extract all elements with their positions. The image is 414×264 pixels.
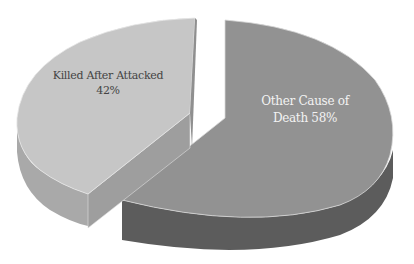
label-killed-after-attacked: Killed After Attacked 42%	[38, 68, 178, 98]
label-killed-name: Killed After Attacked	[38, 68, 178, 83]
label-other-name: Other Cause of	[240, 93, 370, 110]
label-killed-value: 42%	[38, 83, 178, 98]
label-other-value: Death 58%	[240, 110, 370, 127]
pie-chart: Killed After Attacked 42% Other Cause of…	[0, 0, 414, 264]
pie-chart-svg	[0, 0, 414, 264]
label-other-cause-of-death: Other Cause of Death 58%	[240, 93, 370, 127]
